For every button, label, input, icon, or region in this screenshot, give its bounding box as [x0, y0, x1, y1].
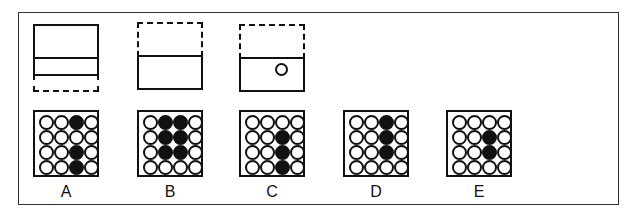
- filled-dot-icon: [69, 160, 84, 175]
- empty-dot-icon: [188, 130, 203, 145]
- empty-dot-icon: [364, 130, 379, 145]
- empty-dot-icon: [188, 160, 203, 175]
- empty-dot-icon: [54, 160, 69, 175]
- empty-dot-icon: [69, 130, 84, 145]
- empty-dot-icon: [143, 145, 158, 160]
- figure-3-solid-rect: [239, 57, 305, 92]
- circle-icon: [275, 63, 288, 76]
- filled-dot-icon: [275, 145, 290, 160]
- empty-dot-icon: [349, 115, 364, 130]
- empty-dot-icon: [497, 145, 512, 160]
- option-b-grid[interactable]: [137, 110, 203, 177]
- option-c-label: C: [239, 183, 305, 201]
- figure-1-solid-rect: [33, 24, 99, 76]
- option-b-label: B: [137, 183, 203, 201]
- empty-dot-icon: [394, 130, 409, 145]
- empty-dot-icon: [452, 145, 467, 160]
- empty-dot-icon: [349, 130, 364, 145]
- empty-dot-icon: [467, 160, 482, 175]
- empty-dot-icon: [39, 115, 54, 130]
- figure-2-solid-rect: [137, 55, 203, 90]
- empty-dot-icon: [245, 115, 260, 130]
- empty-dot-icon: [245, 160, 260, 175]
- empty-dot-icon: [84, 115, 99, 130]
- option-a-label: A: [33, 183, 99, 201]
- filled-dot-icon: [482, 130, 497, 145]
- empty-dot-icon: [452, 160, 467, 175]
- empty-dot-icon: [158, 160, 173, 175]
- empty-dot-icon: [364, 160, 379, 175]
- empty-dot-icon: [143, 160, 158, 175]
- empty-dot-icon: [349, 160, 364, 175]
- empty-dot-icon: [364, 115, 379, 130]
- empty-dot-icon: [84, 130, 99, 145]
- empty-dot-icon: [394, 115, 409, 130]
- filled-dot-icon: [158, 130, 173, 145]
- empty-dot-icon: [188, 145, 203, 160]
- empty-dot-icon: [143, 130, 158, 145]
- empty-dot-icon: [497, 160, 512, 175]
- option-a-grid[interactable]: [33, 110, 99, 177]
- empty-dot-icon: [173, 160, 188, 175]
- empty-dot-icon: [245, 130, 260, 145]
- figure-2-dashed-rect: [137, 22, 203, 57]
- figure-1-dashed-extension: [33, 74, 99, 92]
- empty-dot-icon: [260, 130, 275, 145]
- figure-1-divider: [33, 57, 99, 59]
- empty-dot-icon: [54, 115, 69, 130]
- empty-dot-icon: [467, 145, 482, 160]
- empty-dot-icon: [290, 130, 305, 145]
- filled-dot-icon: [275, 130, 290, 145]
- empty-dot-icon: [54, 145, 69, 160]
- empty-dot-icon: [275, 115, 290, 130]
- empty-dot-icon: [260, 115, 275, 130]
- empty-dot-icon: [364, 145, 379, 160]
- empty-dot-icon: [452, 115, 467, 130]
- filled-dot-icon: [379, 130, 394, 145]
- empty-dot-icon: [84, 145, 99, 160]
- empty-dot-icon: [290, 145, 305, 160]
- empty-dot-icon: [143, 115, 158, 130]
- empty-dot-icon: [188, 115, 203, 130]
- filled-dot-icon: [69, 145, 84, 160]
- empty-dot-icon: [39, 160, 54, 175]
- empty-dot-icon: [394, 160, 409, 175]
- empty-dot-icon: [482, 160, 497, 175]
- filled-dot-icon: [158, 115, 173, 130]
- empty-dot-icon: [245, 145, 260, 160]
- filled-dot-icon: [379, 115, 394, 130]
- filled-dot-icon: [379, 145, 394, 160]
- option-c-grid[interactable]: [239, 110, 305, 177]
- filled-dot-icon: [173, 145, 188, 160]
- empty-dot-icon: [290, 115, 305, 130]
- empty-dot-icon: [394, 145, 409, 160]
- empty-dot-icon: [54, 130, 69, 145]
- option-d-grid[interactable]: [343, 110, 409, 177]
- empty-dot-icon: [497, 130, 512, 145]
- empty-dot-icon: [497, 115, 512, 130]
- filled-dot-icon: [69, 115, 84, 130]
- empty-dot-icon: [260, 160, 275, 175]
- figure-3-dashed-rect: [239, 24, 305, 59]
- empty-dot-icon: [467, 130, 482, 145]
- empty-dot-icon: [467, 115, 482, 130]
- empty-dot-icon: [452, 130, 467, 145]
- empty-dot-icon: [379, 160, 394, 175]
- option-e-grid[interactable]: [446, 110, 512, 177]
- empty-dot-icon: [482, 115, 497, 130]
- empty-dot-icon: [260, 145, 275, 160]
- option-e-label: E: [446, 183, 512, 201]
- empty-dot-icon: [84, 160, 99, 175]
- empty-dot-icon: [39, 130, 54, 145]
- filled-dot-icon: [173, 130, 188, 145]
- empty-dot-icon: [349, 145, 364, 160]
- filled-dot-icon: [158, 145, 173, 160]
- empty-dot-icon: [290, 160, 305, 175]
- option-d-label: D: [343, 183, 409, 201]
- puzzle-frame: [18, 12, 619, 205]
- filled-dot-icon: [482, 145, 497, 160]
- empty-dot-icon: [39, 145, 54, 160]
- filled-dot-icon: [173, 115, 188, 130]
- filled-dot-icon: [275, 160, 290, 175]
